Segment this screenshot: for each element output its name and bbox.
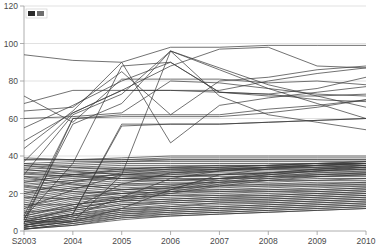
x-tick-label: S2003 <box>12 236 37 246</box>
x-tick-label: 2009 <box>308 236 327 246</box>
legend-box[interactable] <box>26 9 47 18</box>
chart-canvas: 020406080100120 S20032004200520062007200… <box>0 0 377 246</box>
y-tick-label: 60 <box>9 114 19 124</box>
legend-swatch-b <box>37 11 44 16</box>
y-tick-label: 40 <box>9 151 19 161</box>
y-tick-label: 0 <box>13 226 18 236</box>
x-tick-label: 2010 <box>357 236 376 246</box>
y-tick-label: 20 <box>9 189 19 199</box>
x-tick-label: 2008 <box>259 236 278 246</box>
y-tick-label: 120 <box>4 1 18 11</box>
y-tick-label: 80 <box>9 76 19 86</box>
legend-swatch-a <box>28 11 35 16</box>
x-tick-label: 2004 <box>63 236 82 246</box>
x-axis-tick-labels: S20032004200520062007200820092010 <box>12 236 376 246</box>
y-tick-label: 100 <box>4 39 18 49</box>
y-axis-tick-labels: 020406080100120 <box>4 1 18 236</box>
line-chart-container: 020406080100120 S20032004200520062007200… <box>0 0 377 246</box>
y-axis-ticks <box>20 6 24 231</box>
x-tick-label: 2006 <box>161 236 180 246</box>
x-tick-label: 2007 <box>210 236 229 246</box>
x-tick-label: 2005 <box>112 236 131 246</box>
x-axis-ticks <box>24 231 366 235</box>
